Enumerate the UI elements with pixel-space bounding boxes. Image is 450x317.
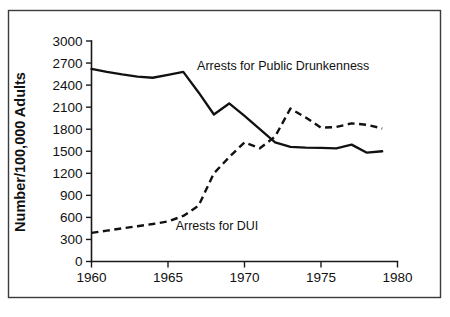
x-tick-label-1970: 1970 xyxy=(229,270,259,285)
series-label-2: Arrests for DUI xyxy=(176,219,259,233)
y-tick-label-300: 300 xyxy=(60,232,83,247)
y-tick-label-2100: 2100 xyxy=(52,100,82,115)
y-tick-label-600: 600 xyxy=(60,210,83,225)
x-tick-label-1975: 1975 xyxy=(306,270,336,285)
line-chart: Number/100,000 Adults 030060090012001500… xyxy=(0,0,450,317)
y-tick-label-2400: 2400 xyxy=(52,78,82,93)
series-lines xyxy=(92,69,383,233)
x-axis-ticks xyxy=(92,262,398,268)
x-axis-tick-labels: 19601965197019751980 xyxy=(76,270,412,285)
series-annotations: Arrests for Public DrunkennessArrests fo… xyxy=(176,59,370,232)
y-tick-label-1800: 1800 xyxy=(52,122,82,137)
y-axis-title: Number/100,000 Adults xyxy=(12,72,28,232)
x-tick-label-1965: 1965 xyxy=(153,270,183,285)
series-line-2 xyxy=(92,109,383,233)
y-tick-label-1200: 1200 xyxy=(52,166,82,181)
x-tick-label-1960: 1960 xyxy=(76,270,106,285)
y-tick-label-900: 900 xyxy=(60,188,83,203)
chart-figure: Number/100,000 Adults 030060090012001500… xyxy=(0,0,450,317)
x-tick-label-1980: 1980 xyxy=(382,270,412,285)
series-line-1 xyxy=(92,69,383,153)
y-tick-label-0: 0 xyxy=(75,254,83,269)
y-axis-tick-labels: 03006009001200150018002100240027003000 xyxy=(52,34,82,270)
y-tick-label-2700: 2700 xyxy=(52,56,82,71)
series-label-1: Arrests for Public Drunkenness xyxy=(197,59,369,73)
y-axis-ticks xyxy=(86,41,92,262)
y-tick-label-1500: 1500 xyxy=(52,144,82,159)
y-tick-label-3000: 3000 xyxy=(52,34,82,49)
